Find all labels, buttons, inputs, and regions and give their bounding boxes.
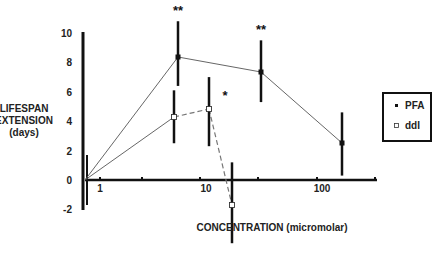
y-tick-label: 6 <box>66 87 72 98</box>
marker-filled-square <box>340 141 345 146</box>
significance-marker: ** <box>173 3 184 18</box>
significance-marker: ** <box>256 22 267 37</box>
y-tick-label: 8 <box>66 57 72 68</box>
axes <box>83 32 377 210</box>
marker-open-square <box>172 115 177 120</box>
chart: 1086420-2 110100 ***** LIFESPAN EXTENSIO… <box>0 0 439 253</box>
x-axis-title: CONCENTRATION (micromolar) <box>197 222 348 233</box>
significance-marker: * <box>222 88 228 103</box>
series-pfa: **** <box>85 3 345 180</box>
svg-text:(days): (days) <box>9 127 38 138</box>
y-tick-label: -2 <box>63 204 72 215</box>
y-axis-title: LIFESPAN EXTENSION (days) <box>0 103 53 138</box>
series-segment <box>178 57 261 72</box>
series-segment <box>85 117 174 180</box>
series-segment <box>85 57 178 180</box>
series-segment <box>174 109 209 117</box>
legend-marker-ddi <box>395 124 399 128</box>
legend-label-pfa: PFA <box>405 100 424 111</box>
series-layer: ***** <box>85 3 345 243</box>
marker-filled-square <box>176 55 181 60</box>
legend-marker-pfa <box>395 104 398 107</box>
y-tick-label: 4 <box>66 116 72 127</box>
y-tick-label: 10 <box>61 28 73 39</box>
x-tick-label: 1 <box>97 183 103 194</box>
series-segment <box>209 109 232 205</box>
series-segment <box>261 72 342 143</box>
legend: PFA ddI <box>383 93 431 141</box>
marker-open-square <box>230 203 235 208</box>
svg-text:LIFESPAN: LIFESPAN <box>0 103 48 114</box>
legend-label-ddi: ddI <box>405 120 420 131</box>
x-tick-label: 10 <box>200 183 212 194</box>
series-ddi: * <box>85 77 235 243</box>
y-tick-labels: 1086420-2 <box>61 28 73 215</box>
x-tick-label: 100 <box>314 183 331 194</box>
y-tick-label: 2 <box>66 146 72 157</box>
marker-open-square <box>207 107 212 112</box>
svg-text:EXTENSION: EXTENSION <box>0 115 53 126</box>
y-tick-label: 0 <box>66 175 72 186</box>
marker-filled-square <box>259 70 264 75</box>
